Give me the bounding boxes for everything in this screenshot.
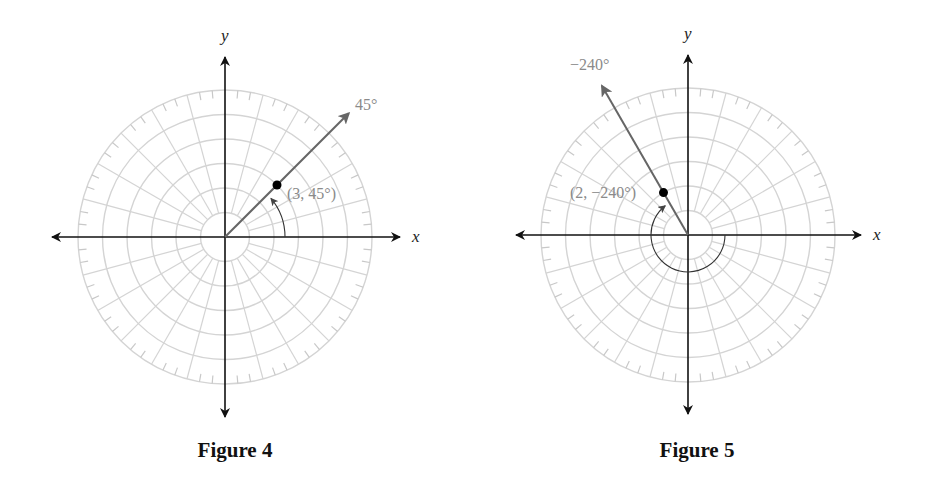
- grid-tick: [662, 372, 663, 380]
- grid-tick: [550, 185, 558, 188]
- grid-tick: [575, 324, 581, 329]
- grid-tick: [638, 97, 641, 105]
- grid-tick: [249, 374, 250, 382]
- grid-tick: [777, 341, 782, 347]
- grid-tick: [362, 261, 370, 262]
- grid-tick: [819, 283, 827, 286]
- grid-tick: [736, 97, 739, 105]
- grid-tick: [212, 375, 213, 383]
- grid-spoke: [712, 197, 830, 229]
- grid-spoke: [187, 261, 219, 379]
- figure-5-plot: xy−240°(2, −240°): [516, 24, 881, 414]
- grid-tick: [105, 317, 112, 322]
- polar-point: [659, 188, 668, 197]
- grid-spoke: [121, 254, 208, 341]
- grid-tick: [363, 224, 371, 225]
- grid-tick: [814, 294, 821, 297]
- grid-tick: [314, 343, 319, 349]
- grid-tick: [604, 349, 609, 356]
- grid-tick: [362, 211, 370, 212]
- grid-tick: [249, 92, 250, 100]
- grid-tick: [80, 261, 88, 262]
- grid-tick: [594, 122, 599, 128]
- grid-tick: [273, 99, 276, 107]
- grid-tick: [87, 187, 95, 190]
- grid-tick: [568, 315, 575, 320]
- grid-tick: [80, 211, 88, 212]
- grid-tick: [814, 173, 821, 176]
- grid-tick: [555, 294, 562, 297]
- grid-tick: [212, 91, 213, 99]
- grid-tick: [712, 372, 713, 380]
- point-label: (3, 45°): [287, 185, 336, 203]
- x-axis-label: x: [872, 225, 881, 244]
- grid-tick: [175, 99, 178, 107]
- grid-tick: [794, 141, 800, 146]
- grid-tick: [92, 296, 99, 299]
- figure-4-plot: xy45°(3, 45°): [52, 26, 420, 417]
- grid-spoke: [83, 243, 201, 275]
- grid-spoke: [231, 95, 263, 213]
- figure-4-caption: Figure 4: [135, 438, 335, 463]
- grid-tick: [314, 124, 319, 130]
- grid-tick: [305, 351, 310, 358]
- point-label: (2, −240°): [570, 184, 636, 202]
- grid-tick: [826, 222, 834, 223]
- grid-spoke: [650, 259, 682, 377]
- grid-tick: [112, 326, 118, 331]
- grid-tick: [331, 326, 337, 331]
- grid-tick: [339, 317, 346, 322]
- grid-tick: [802, 151, 809, 156]
- grid-tick: [105, 153, 112, 158]
- grid-tick: [736, 366, 739, 374]
- grid-tick: [543, 209, 551, 210]
- grid-tick: [747, 361, 750, 368]
- grid-tick: [543, 259, 551, 260]
- grid-tick: [199, 92, 200, 100]
- ray-angle-label: −240°: [570, 56, 609, 73]
- grid-spoke: [712, 241, 830, 273]
- grid-tick: [768, 115, 773, 122]
- grid-tick: [79, 224, 87, 225]
- grid-tick: [175, 368, 178, 376]
- grid-spoke: [249, 243, 367, 275]
- diagram-canvas: xy45°(3, 45°) xy−240°(2, −240°) Figure 4…: [0, 0, 927, 480]
- grid-tick: [87, 285, 95, 288]
- grid-tick: [826, 247, 834, 248]
- grid-tick: [568, 151, 575, 156]
- y-axis-label: y: [682, 24, 692, 43]
- grid-tick: [626, 361, 629, 368]
- grid-tick: [794, 324, 800, 329]
- grid-spoke: [694, 93, 726, 211]
- grid-tick: [284, 104, 287, 111]
- grid-tick: [141, 351, 146, 358]
- grid-tick: [700, 89, 701, 97]
- grid-tick: [575, 141, 581, 146]
- grid-tick: [79, 249, 87, 250]
- grid-tick: [131, 124, 136, 130]
- grid-tick: [675, 89, 676, 97]
- grid-tick: [700, 373, 701, 381]
- grid-tick: [604, 115, 609, 122]
- grid-tick: [626, 102, 629, 109]
- grid-tick: [131, 343, 136, 349]
- grid-spoke: [121, 133, 208, 220]
- grid-tick: [594, 341, 599, 347]
- polar-figures-svg: xy45°(3, 45°) xy−240°(2, −240°): [0, 0, 927, 480]
- ray-angle-label: 45°: [355, 96, 377, 113]
- grid-spoke: [83, 199, 201, 231]
- grid-tick: [163, 363, 166, 370]
- grid-spoke: [249, 199, 367, 231]
- grid-spoke: [546, 241, 664, 273]
- grid-tick: [638, 366, 641, 374]
- grid-tick: [112, 143, 118, 148]
- grid-tick: [363, 249, 371, 250]
- grid-tick: [675, 373, 676, 381]
- grid-tick: [768, 349, 773, 356]
- grid-tick: [356, 285, 364, 288]
- grid-tick: [825, 259, 833, 260]
- grid-tick: [141, 117, 146, 124]
- grid-spoke: [584, 131, 671, 218]
- grid-tick: [825, 209, 833, 210]
- grid-tick: [237, 91, 238, 99]
